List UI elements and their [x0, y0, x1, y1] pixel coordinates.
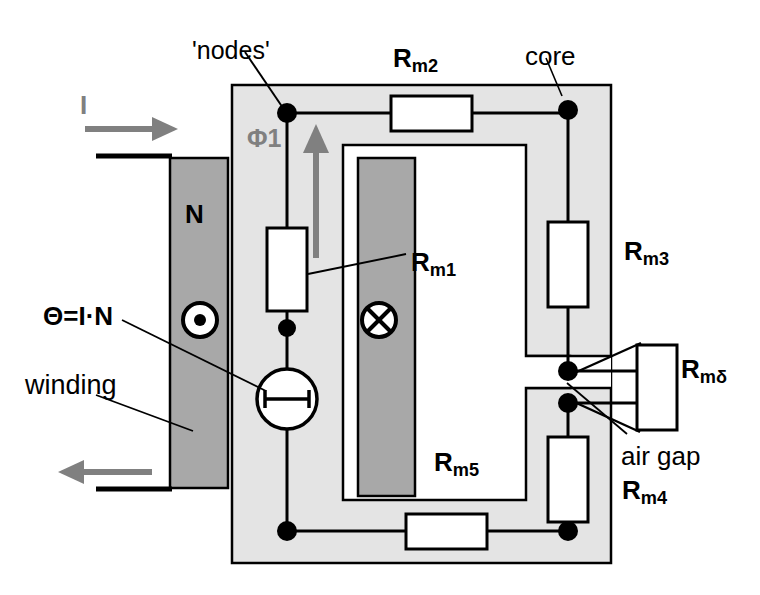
resistor-rm1[interactable] [267, 228, 307, 311]
label-rm2: Rm2 [393, 45, 438, 71]
label-air-gap: air gap [621, 443, 701, 469]
label-rm4-base: R [622, 475, 641, 505]
label-mmf: Θ=I·N [43, 303, 113, 329]
label-rm4-sub: m4 [641, 488, 667, 508]
figure-canvas: 'nodes' I N Θ=I·N winding Φ1 core air ga… [0, 0, 760, 595]
node-mid-left [278, 319, 296, 337]
node-top-right [558, 100, 578, 120]
current-arrow-out [58, 460, 152, 484]
label-rm3-sub: m3 [643, 249, 669, 269]
label-rmdelta-base: R [681, 354, 700, 384]
node-gap-upper [558, 361, 578, 381]
label-rm4: Rm4 [622, 477, 667, 503]
label-rmdelta-sub: mδ [700, 367, 727, 387]
label-rm5-sub: m5 [453, 460, 479, 480]
label-rm1-base: R [411, 247, 430, 277]
label-rm3: Rm3 [624, 238, 669, 264]
label-rm5-base: R [434, 447, 453, 477]
label-rm1-sub: m1 [430, 260, 456, 280]
label-rm5: Rm5 [434, 449, 479, 475]
label-rm3-base: R [624, 236, 643, 266]
current-arrow-in [85, 117, 178, 141]
resistor-rm2[interactable] [391, 96, 472, 131]
resistor-rmdelta[interactable] [637, 345, 677, 430]
label-rm1: Rm1 [411, 249, 456, 275]
node-top-left [277, 103, 297, 123]
cross-in-circle-icon [362, 303, 396, 337]
label-rm2-sub: m2 [412, 56, 438, 76]
label-turns: N [185, 201, 204, 227]
label-rm2-base: R [393, 43, 412, 73]
resistor-rm3[interactable] [548, 222, 588, 307]
label-nodes: 'nodes' [192, 38, 270, 63]
mmf-source-icon[interactable] [257, 369, 317, 429]
label-current: I [80, 92, 87, 118]
label-flux1: Φ1 [247, 126, 281, 151]
resistor-rm4[interactable] [548, 437, 588, 522]
resistor-rm5[interactable] [406, 514, 487, 549]
label-core: core [525, 43, 576, 69]
label-winding: winding [25, 372, 117, 399]
node-bottom-left [277, 521, 297, 541]
node-bottom-right [558, 521, 578, 541]
dot-in-circle-icon [183, 303, 217, 337]
label-rmdelta: Rmδ [681, 356, 727, 382]
